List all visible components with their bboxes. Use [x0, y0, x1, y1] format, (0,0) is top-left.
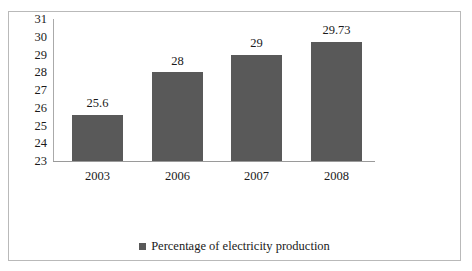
bar-group: 29.732008 — [311, 18, 362, 161]
y-axis-tick-label: 30 — [35, 31, 48, 44]
y-axis-tick-label: 23 — [35, 155, 48, 168]
y-axis-tick-label: 25 — [35, 119, 48, 132]
y-axis-tick-label: 24 — [35, 137, 48, 150]
chart-frame: 313029282726252423 25.620032820062920072… — [8, 11, 461, 261]
chart-legend: Percentage of electricity production — [9, 240, 460, 253]
bar-group: 282006 — [152, 18, 203, 161]
y-axis-tick-label: 26 — [35, 102, 48, 115]
y-axis-tick-label: 28 — [35, 66, 48, 79]
bar-group: 292007 — [231, 18, 282, 161]
bar-value-label: 29.73 — [322, 24, 350, 37]
bar — [231, 55, 282, 162]
bar — [72, 115, 123, 161]
y-axis-tick-label: 31 — [35, 13, 48, 26]
bar-value-label: 29 — [250, 37, 263, 50]
x-axis-category-label: 2003 — [85, 170, 110, 183]
bar-group: 25.62003 — [72, 18, 123, 161]
plot-area: 313029282726252423 25.620032820062920072… — [53, 19, 378, 162]
x-axis-category-label: 2007 — [244, 170, 269, 183]
x-axis-category-label: 2008 — [324, 170, 349, 183]
x-axis-line — [53, 161, 375, 162]
bar — [311, 42, 362, 161]
y-axis-tick-label: 29 — [35, 48, 48, 61]
y-axis-line — [53, 19, 54, 162]
bar — [152, 72, 203, 161]
bar-value-label: 28 — [171, 55, 184, 68]
bar-value-label: 25.6 — [87, 97, 109, 110]
legend-label: Percentage of electricity production — [151, 240, 330, 253]
legend-square-marker — [139, 243, 146, 250]
x-axis-category-label: 2006 — [165, 170, 190, 183]
y-axis-tick-label: 27 — [35, 84, 48, 97]
